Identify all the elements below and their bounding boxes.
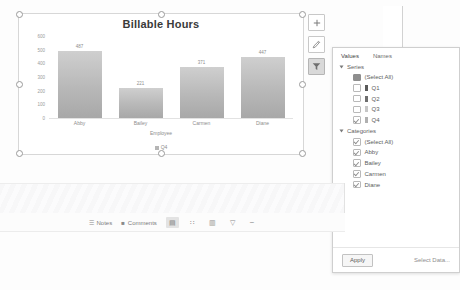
checkbox[interactable] <box>353 84 361 92</box>
y-axis-tick: 400 <box>37 61 45 66</box>
x-axis-category-label: Abby <box>54 120 106 126</box>
checkbox[interactable] <box>353 74 361 82</box>
checkbox[interactable] <box>353 138 361 146</box>
series-color-swatch-icon <box>365 117 368 123</box>
filter-row[interactable]: Q2 <box>333 93 459 104</box>
y-axis-tick: 600 <box>37 34 45 39</box>
chevron-down-icon <box>340 66 344 69</box>
y-axis-tick: 500 <box>37 47 45 52</box>
filter-row-label: Carmen <box>365 171 386 177</box>
plus-icon <box>313 19 321 27</box>
notes-button[interactable]: ☰ Notes <box>89 219 113 226</box>
status-bar: ☰ Notes ■ Comments ▤∷▥▽ − <box>0 213 345 232</box>
band-right-edge <box>344 183 345 213</box>
resize-handle-top-right[interactable] <box>299 11 306 18</box>
chart-legend[interactable]: Q4 <box>19 144 303 150</box>
filter-row[interactable]: Q4 <box>333 115 459 126</box>
filter-row[interactable]: Q1 <box>333 83 459 94</box>
select-data-link[interactable]: Select Data... <box>414 257 450 263</box>
section-title: Series <box>347 64 364 70</box>
comment-bubble-icon: ■ <box>121 220 125 226</box>
bar[interactable] <box>241 57 285 118</box>
filter-row-label: Q2 <box>372 96 380 102</box>
chart-side-buttons <box>308 14 325 80</box>
bar-series: 487221371447 <box>49 36 293 118</box>
bar[interactable] <box>119 88 163 118</box>
checkbox[interactable] <box>353 95 361 103</box>
legend-swatch-icon <box>155 146 159 150</box>
resize-handle-top-center[interactable] <box>158 11 165 18</box>
checkbox[interactable] <box>353 181 361 189</box>
series-color-swatch-icon <box>365 96 368 102</box>
notes-icon: ☰ <box>89 219 94 226</box>
filter-row[interactable]: (Select All) <box>333 136 459 147</box>
section-title: Categories <box>347 128 376 134</box>
bar-slot: 221 <box>115 36 167 118</box>
section-header-categories[interactable]: Categories <box>333 125 459 136</box>
bar-data-label: 221 <box>137 81 145 86</box>
comments-label: Comments <box>128 220 157 226</box>
checkbox[interactable] <box>353 149 361 157</box>
popup-tab-values[interactable]: Values <box>341 53 359 59</box>
slideshow-view-button[interactable]: ▽ <box>226 217 239 228</box>
legend-label: Q4 <box>161 144 168 150</box>
bar-data-label: 371 <box>198 60 206 65</box>
zoom-out-button[interactable]: − <box>248 218 257 227</box>
chart-elements-button[interactable] <box>308 14 325 31</box>
filter-row[interactable]: (Select All) <box>333 72 459 83</box>
plot-area: 6005004003002001000 487221371447 <box>49 36 293 118</box>
chart-object[interactable]: Billable Hours 6005004003002001000 48722… <box>18 13 304 155</box>
filter-row[interactable]: Carmen <box>333 169 459 180</box>
y-axis-tick: 0 <box>42 116 45 121</box>
filter-row[interactable]: Diane <box>333 179 459 190</box>
popup-tabs: ValuesNames <box>333 48 459 61</box>
filter-row[interactable]: Q3 <box>333 104 459 115</box>
checkbox[interactable] <box>353 116 361 124</box>
comments-button[interactable]: ■ Comments <box>121 220 157 226</box>
bar[interactable] <box>58 51 102 118</box>
resize-handle-top-left[interactable] <box>16 11 23 18</box>
popup-footer: Apply Select Data... <box>333 247 459 272</box>
filter-row-label: Abby <box>365 149 379 155</box>
y-axis-tick: 200 <box>37 88 45 93</box>
filter-row-label: Bailey <box>365 160 381 166</box>
x-axis-title[interactable]: Employee <box>19 130 303 136</box>
chart-title[interactable]: Billable Hours <box>19 18 303 30</box>
filter-row-label: (Select All) <box>365 74 394 80</box>
chart-filters-popup[interactable]: ValuesNames Series(Select All)Q1Q2Q3Q4Ca… <box>332 47 460 273</box>
bar-data-label: 487 <box>76 44 84 49</box>
resize-handle-bottom-right[interactable] <box>299 150 306 157</box>
checkbox[interactable] <box>353 159 361 167</box>
filter-row[interactable]: Bailey <box>333 158 459 169</box>
x-axis-line <box>49 118 293 119</box>
normal-view-button[interactable]: ▤ <box>166 217 179 228</box>
funnel-icon <box>312 62 321 71</box>
resize-handle-middle-left[interactable] <box>16 81 23 88</box>
resize-handle-bottom-center[interactable] <box>158 150 165 157</box>
paintbrush-icon <box>312 40 321 49</box>
chevron-down-icon <box>340 130 344 133</box>
chart-filters-button[interactable] <box>308 58 325 75</box>
x-axis-labels: AbbyBaileyCarmenDiane <box>49 120 293 126</box>
resize-handle-middle-right[interactable] <box>299 81 306 88</box>
checkbox[interactable] <box>353 170 361 178</box>
series-color-swatch-icon <box>365 85 368 91</box>
filter-row-label: Q3 <box>372 106 380 112</box>
reading-view-button[interactable]: ▥ <box>206 217 219 228</box>
x-axis-category-label: Bailey <box>115 120 167 126</box>
section-header-series[interactable]: Series <box>333 61 459 72</box>
bar-slot: 447 <box>237 36 289 118</box>
slide-sorter-view-button[interactable]: ∷ <box>186 217 199 228</box>
bar-slot: 371 <box>176 36 228 118</box>
filter-row-label: Q1 <box>372 85 380 91</box>
bar-data-label: 447 <box>259 50 267 55</box>
resize-handle-bottom-left[interactable] <box>16 150 23 157</box>
x-axis-category-label: Diane <box>237 120 289 126</box>
series-color-swatch-icon <box>365 106 368 112</box>
chart-styles-button[interactable] <box>308 36 325 53</box>
apply-button[interactable]: Apply <box>342 254 373 267</box>
checkbox[interactable] <box>353 106 361 114</box>
popup-tab-names[interactable]: Names <box>373 53 392 59</box>
filter-row[interactable]: Abby <box>333 147 459 158</box>
bar[interactable] <box>180 67 224 118</box>
